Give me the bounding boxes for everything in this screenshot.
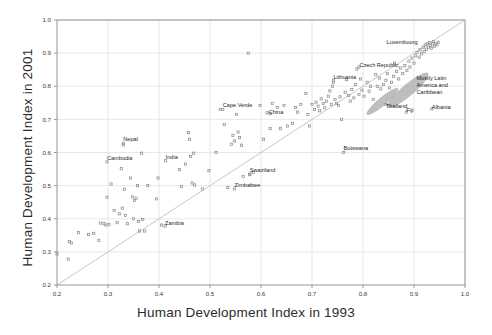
svg-text:China: China <box>269 109 285 115</box>
svg-text:Botswana: Botswana <box>344 145 369 151</box>
svg-text:America and: America and <box>417 82 448 88</box>
svg-text:Albania: Albania <box>432 104 452 110</box>
svg-text:Lithuania: Lithuania <box>333 74 357 80</box>
svg-text:Cambodia: Cambodia <box>107 155 133 161</box>
svg-text:India: India <box>166 154 179 160</box>
chart-figure: 0.20.30.40.50.60.70.80.91.00.20.30.40.50… <box>0 0 492 335</box>
svg-text:Zimbabwe: Zimbabwe <box>234 182 260 188</box>
svg-text:Zambia: Zambia <box>165 220 185 226</box>
svg-text:0.7: 0.7 <box>42 116 51 123</box>
svg-text:Swaziland: Swaziland <box>250 167 276 173</box>
svg-text:1.0: 1.0 <box>461 290 470 297</box>
svg-text:Luxembourg: Luxembourg <box>387 39 418 45</box>
svg-text:0.2: 0.2 <box>42 281 51 288</box>
svg-text:0.7: 0.7 <box>308 290 317 297</box>
svg-text:Mostly Latin: Mostly Latin <box>417 75 447 81</box>
svg-text:0.4: 0.4 <box>42 215 51 222</box>
svg-text:Cape Verde: Cape Verde <box>223 102 253 108</box>
svg-text:Caribbean: Caribbean <box>417 89 443 95</box>
svg-text:0.2: 0.2 <box>53 290 62 297</box>
svg-text:0.9: 0.9 <box>42 49 51 56</box>
svg-text:0.6: 0.6 <box>42 149 51 156</box>
data-points <box>56 40 440 260</box>
svg-text:0.5: 0.5 <box>206 290 215 297</box>
svg-text:0.3: 0.3 <box>42 248 51 255</box>
svg-text:0.3: 0.3 <box>104 290 113 297</box>
svg-text:0.6: 0.6 <box>257 290 266 297</box>
svg-text:Fiji: Fiji <box>406 107 413 113</box>
scatter-plot: 0.20.30.40.50.60.70.80.91.00.20.30.40.50… <box>0 0 492 335</box>
svg-text:Czech Republic: Czech Republic <box>359 62 398 68</box>
svg-text:0.4: 0.4 <box>155 290 164 297</box>
y-axis-title: Human Development Index in 2001 <box>20 18 35 298</box>
svg-text:0.9: 0.9 <box>410 290 419 297</box>
svg-text:Thailand: Thailand <box>386 103 407 109</box>
svg-text:0.8: 0.8 <box>359 290 368 297</box>
svg-text:1.0: 1.0 <box>42 16 51 23</box>
x-axis-title: Human Development Index in 1993 <box>0 305 492 320</box>
svg-text:Nepal: Nepal <box>123 136 138 142</box>
svg-text:0.8: 0.8 <box>42 82 51 89</box>
svg-text:0.5: 0.5 <box>42 182 51 189</box>
